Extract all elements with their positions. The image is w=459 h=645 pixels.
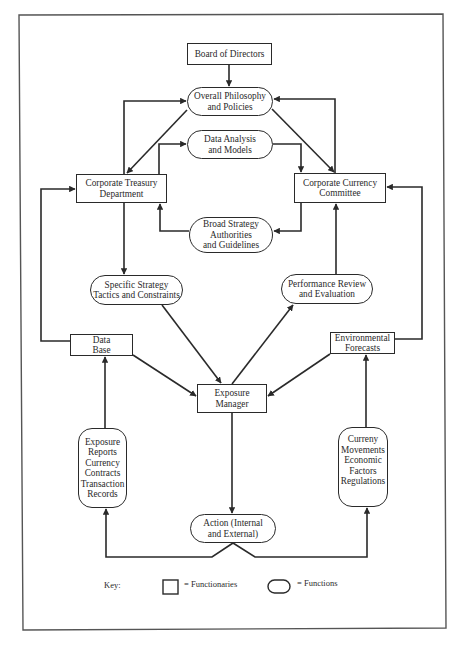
edge-database-manager <box>133 355 196 396</box>
edge-philosophy-committee <box>272 109 334 172</box>
node-label: Corporate Currency <box>303 178 377 189</box>
node-label: Base <box>92 345 110 356</box>
node-label: Authorities <box>210 230 252 241</box>
node-label: Board of Directors <box>195 49 265 60</box>
node-exposure-reports: Exposure Reports Currency Contracts Tran… <box>78 428 127 508</box>
node-label: Records <box>87 489 117 500</box>
node-label: and Evaluation <box>299 289 355 300</box>
node-label: Data Analysis <box>204 134 256 145</box>
node-label: Transaction <box>81 479 125 490</box>
key-functions-label: = Functions <box>297 578 337 588</box>
node-action: Action (Internal and External) <box>190 514 276 543</box>
edge-treasury-philosophy <box>124 101 186 175</box>
node-corporate-treasury: Corporate Treasury Department <box>76 174 167 203</box>
node-environmental-forecasts: Environmental Forecasts <box>330 332 395 354</box>
node-label: Broad Strategy <box>203 219 259 230</box>
node-label: Tactics and Constraints <box>93 290 180 301</box>
node-label: Contracts <box>85 468 121 479</box>
node-label: and Guidelines <box>203 240 259 251</box>
node-board-of-directors: Board of Directors <box>187 43 272 65</box>
node-currency-movements: Curreny Movements Economic Factors Regul… <box>338 427 388 507</box>
node-label: Exposure <box>85 437 120 448</box>
node-label: and Models <box>208 145 252 156</box>
key-functionaries-label: = Functionaries <box>184 579 237 589</box>
edge-committee-broad-strategy <box>274 203 301 231</box>
node-label: Data <box>93 335 111 346</box>
node-label: Specific Strategy <box>105 280 169 291</box>
key-functionary-icon <box>163 580 178 594</box>
node-label: Environmental <box>335 333 390 344</box>
node-label: Manager <box>215 399 248 410</box>
node-label: Forecasts <box>345 343 380 354</box>
edge-philosophy-treasury <box>127 110 187 173</box>
node-label: Exposure <box>214 388 249 399</box>
edge-forecasts-manager <box>268 354 330 396</box>
edge-forecasts-committee <box>387 187 422 339</box>
node-label: Regulations <box>341 476 385 487</box>
node-label: Reports <box>88 447 117 458</box>
edge-manager-performance <box>232 305 293 384</box>
edge-committee-philosophy <box>274 99 335 173</box>
node-broad-strategy: Broad Strategy Authorities and Guideline… <box>189 217 273 253</box>
node-label: Overall Philosophy <box>194 91 266 102</box>
key-label: Key: <box>104 580 121 590</box>
edge-specific-strategy-manager <box>162 305 221 383</box>
key-function-icon <box>268 580 290 593</box>
node-label: Currency <box>85 458 120 469</box>
edge-data-analysis-committee <box>273 144 301 172</box>
node-label: Economic <box>344 455 382 466</box>
node-label: Corporate Treasury <box>85 178 157 189</box>
edge-database-treasury <box>41 189 75 341</box>
node-label: Curreny <box>348 434 378 445</box>
node-exposure-manager: Exposure Manager <box>197 384 267 413</box>
node-label: Department <box>100 189 144 200</box>
node-specific-strategy: Specific Strategy Tactics and Constraint… <box>90 275 183 305</box>
node-corporate-currency-committee: Corporate Currency Committee <box>294 173 386 203</box>
node-label: and Policies <box>207 102 252 113</box>
node-performance-review: Performance Review and Evaluation <box>281 274 373 304</box>
node-data-analysis: Data Analysis and Models <box>187 130 273 159</box>
node-label: and External) <box>208 529 258 540</box>
node-data-base: Data Base <box>70 334 133 356</box>
edge-treasury-data-analysis <box>159 144 186 175</box>
node-overall-philosophy: Overall Philosophy and Policies <box>187 87 273 116</box>
node-label: Factors <box>349 466 376 477</box>
node-label: Committee <box>319 188 360 199</box>
node-label: Performance Review <box>288 279 366 290</box>
node-label: Action (Internal <box>203 518 263 529</box>
node-label: Movements <box>341 445 385 456</box>
edge-broad-strategy-treasury <box>160 204 189 231</box>
